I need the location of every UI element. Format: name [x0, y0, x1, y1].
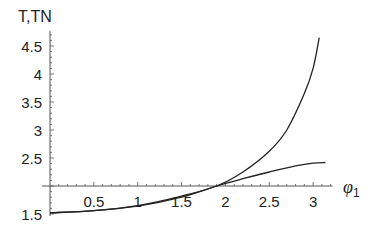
y-tick-label: 4.5	[21, 38, 42, 55]
x-axis-title-subscript: 1	[353, 186, 360, 200]
x-tick-label: 3	[309, 193, 317, 210]
y-tick-label: 3	[34, 122, 42, 139]
x-axis-title-symbol: φ	[343, 177, 353, 197]
line-chart: T,TN φ1 0.511.522.531.52.533.544.5	[0, 0, 371, 231]
y-tick-label: 2.5	[21, 150, 42, 167]
y-tick-label: 4	[34, 66, 42, 83]
x-tick-label: 1	[134, 193, 142, 210]
curves	[50, 38, 325, 213]
x-tick-label: 2.5	[259, 193, 280, 210]
x-tick-label: 1.5	[171, 193, 192, 210]
x-axis-title: φ1	[343, 177, 360, 200]
y-axis-title: T,TN	[18, 8, 52, 25]
axes	[42, 31, 333, 216]
labels: T,TN φ1 0.511.522.531.52.533.544.5	[18, 8, 360, 223]
x-tick-label: 0.5	[83, 193, 104, 210]
series-t-line	[50, 38, 319, 213]
y-tick-label: 1.5	[21, 206, 42, 223]
y-tick-label: 3.5	[21, 94, 42, 111]
x-tick-label: 2	[221, 193, 229, 210]
